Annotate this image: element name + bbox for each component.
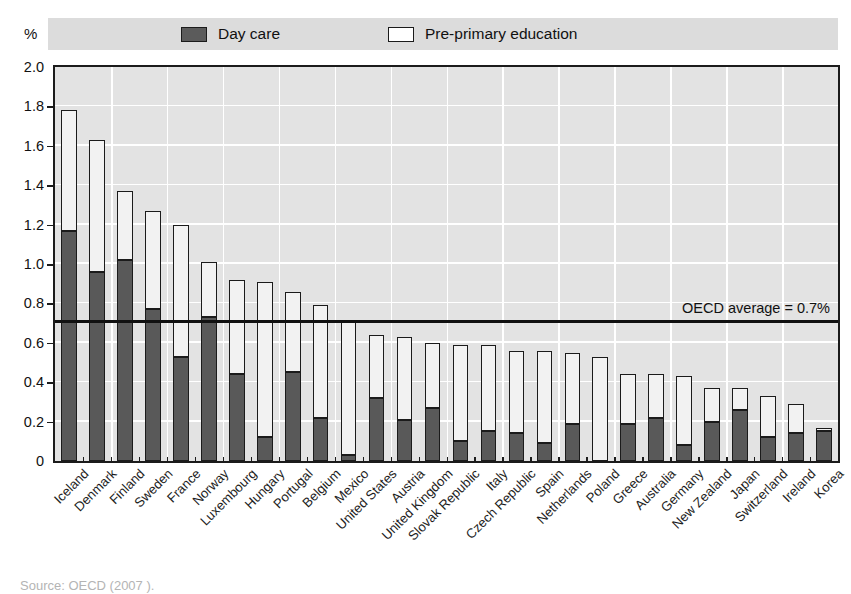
bar-segment-day-care (313, 418, 329, 461)
x-axis-tick (307, 457, 308, 461)
oecd-average-line (55, 320, 838, 323)
bar-segment-pre-primary (117, 191, 133, 260)
gridline-vertical (391, 67, 393, 461)
cut-off-caption (48, 0, 838, 11)
bar-segment-pre-primary (648, 374, 664, 417)
bar-germany (676, 376, 692, 461)
x-axis-tick (335, 457, 336, 461)
bar-iceland (61, 110, 77, 461)
bar-luxembourg (229, 280, 245, 461)
y-axis-unit-label: % (24, 25, 37, 42)
y-axis-tick-mark (47, 303, 53, 305)
gridline-vertical (558, 67, 560, 461)
x-axis-tick (139, 457, 140, 461)
bar-segment-pre-primary (760, 396, 776, 437)
x-axis-category-labels: IcelandDenmarkFinlandSwedenFranceNorwayL… (53, 466, 840, 576)
y-axis-tick-label: 1.0 (0, 256, 44, 272)
bar-segment-pre-primary (565, 353, 581, 424)
x-axis-tick (530, 457, 531, 461)
bar-segment-day-care (257, 437, 273, 461)
x-axis-tick (111, 457, 112, 461)
x-axis-tick (447, 457, 448, 461)
bar-united-states (369, 335, 385, 461)
bar-segment-day-care (537, 443, 553, 461)
bar-united-kingdom (425, 343, 441, 461)
bar-segment-day-care (61, 231, 77, 461)
bar-segment-pre-primary (704, 388, 720, 421)
y-axis-tick-mark (47, 264, 53, 266)
gridline-vertical (223, 67, 225, 461)
bar-segment-pre-primary (61, 110, 77, 230)
x-axis-tick (251, 457, 252, 461)
bar-mexico (341, 321, 357, 461)
bar-segment-day-care (285, 372, 301, 461)
y-axis-tick-mark (47, 422, 53, 424)
oecd-average-label: OECD average = 0.7% (682, 300, 830, 316)
bar-segment-pre-primary (257, 282, 273, 438)
y-axis-tick-label: 0.4 (0, 374, 44, 390)
x-axis-tick (167, 457, 168, 461)
bar-segment-pre-primary (509, 351, 525, 434)
y-axis-tick-label: 1.6 (0, 138, 44, 154)
bar-greece (620, 374, 636, 461)
x-axis-tick (83, 457, 84, 461)
bar-segment-pre-primary (620, 374, 636, 423)
bar-segment-pre-primary (481, 345, 497, 432)
y-axis-tick-label: 0 (0, 453, 44, 469)
bar-japan (732, 388, 748, 461)
bar-segment-pre-primary (537, 351, 553, 444)
bar-segment-day-care (369, 398, 385, 461)
bar-segment-day-care (397, 420, 413, 461)
x-axis-tick (782, 457, 783, 461)
legend-item-day-care: Day care (181, 24, 280, 44)
gridline-vertical (447, 67, 449, 461)
bar-france (173, 225, 189, 461)
y-axis-tick-mark (47, 343, 53, 345)
y-axis-tick-label: 1.8 (0, 98, 44, 114)
bar-belgium (313, 305, 329, 461)
bar-segment-pre-primary (201, 262, 217, 317)
bar-portugal (285, 292, 301, 461)
bar-segment-day-care (732, 410, 748, 461)
bar-norway (201, 262, 217, 461)
bar-segment-pre-primary (453, 345, 469, 442)
bar-segment-day-care (788, 433, 804, 461)
bar-austria (397, 337, 413, 461)
gridline-vertical (726, 67, 728, 461)
y-axis-tick-label: 1.4 (0, 177, 44, 193)
x-axis-tick (419, 457, 420, 461)
bar-segment-day-care (201, 317, 217, 461)
bar-segment-day-care (648, 418, 664, 461)
bar-segment-day-care (760, 437, 776, 461)
gridline-vertical (167, 67, 169, 461)
bar-segment-day-care (565, 424, 581, 461)
x-axis-tick (391, 457, 392, 461)
bar-finland (117, 191, 133, 461)
y-axis-tick-label: 2.0 (0, 59, 44, 75)
x-axis-label-korea: Korea (811, 466, 846, 501)
bar-spain (537, 351, 553, 461)
x-axis-tick (698, 457, 699, 461)
x-axis-tick (502, 457, 503, 461)
legend-label-day-care: Day care (218, 25, 280, 43)
bar-segment-pre-primary (676, 376, 692, 445)
gridline-vertical (502, 67, 504, 461)
bar-segment-pre-primary (145, 211, 161, 310)
bar-segment-pre-primary (89, 140, 105, 272)
bar-sweden (145, 211, 161, 461)
bar-segment-pre-primary (592, 357, 608, 461)
chart-legend: Day care Pre-primary education (48, 18, 838, 50)
bar-segment-day-care (229, 374, 245, 461)
gridline-vertical (614, 67, 616, 461)
bar-segment-pre-primary (732, 388, 748, 410)
bar-segment-pre-primary (425, 343, 441, 408)
bar-korea (816, 428, 832, 461)
y-axis-tick-mark (47, 185, 53, 187)
bar-hungary (257, 282, 273, 461)
bar-segment-day-care (341, 455, 357, 461)
chart-bars-layer: OECD average = 0.7% (55, 67, 838, 461)
bar-segment-day-care (173, 357, 189, 461)
gridline-vertical (670, 67, 672, 461)
bar-italy (481, 345, 497, 461)
bar-segment-day-care (481, 431, 497, 461)
